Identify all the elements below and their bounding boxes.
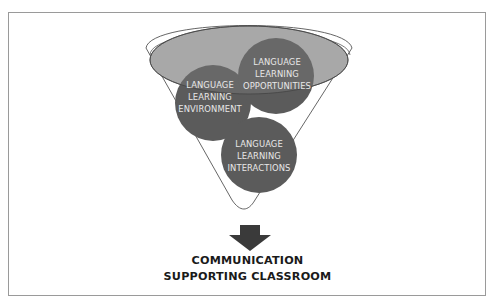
label-environment-line3: ENVIRONMENT	[178, 104, 242, 114]
label-opportunities-line3: OPPORTUNITIES	[243, 81, 311, 91]
label-environment-line2: LEARNING	[188, 92, 232, 102]
label-interactions-line1: LANGUAGE	[235, 139, 283, 149]
label-opportunities-line1: LANGUAGE	[253, 57, 301, 67]
label-opportunities-line2: LEARNING	[255, 69, 299, 79]
down-arrow-icon	[229, 225, 271, 251]
output-line1: COMMUNICATION	[0, 254, 495, 267]
label-environment-line1: LANGUAGE	[186, 80, 234, 90]
label-interactions-line2: LEARNING	[237, 151, 281, 161]
label-interactions-line3: INTERACTIONS	[227, 163, 290, 173]
output-line2: SUPPORTING CLASSROOM	[0, 270, 495, 283]
